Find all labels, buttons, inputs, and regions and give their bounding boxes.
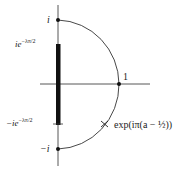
complex-plane-diagram: i ie−λπ/2 1 −ie−λπ/2 −i exp(iπ(a − ½)) bbox=[0, 0, 184, 171]
point-one bbox=[117, 82, 121, 86]
semicircle-arc bbox=[58, 20, 119, 149]
label-minus-i: −i bbox=[40, 143, 50, 154]
point-minus-i bbox=[56, 147, 60, 151]
label-lower-bar: −ie−λπ/2 bbox=[6, 117, 33, 128]
label-arc-point: exp(iπ(a − ½)) bbox=[114, 119, 172, 131]
point-i bbox=[56, 18, 60, 22]
label-one: 1 bbox=[123, 71, 128, 82]
branch-cut-bar bbox=[56, 44, 61, 125]
label-i: i bbox=[47, 14, 50, 25]
label-upper-bar: ie−λπ/2 bbox=[15, 38, 36, 49]
